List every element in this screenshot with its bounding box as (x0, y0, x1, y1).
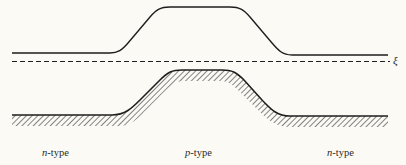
region-label-suffix: -type (47, 147, 69, 158)
region-label-suffix: -type (332, 147, 354, 158)
valence-band-hatching (0, 60, 406, 140)
band-diagram (0, 0, 406, 165)
region-label-p-center: p-type (185, 147, 212, 158)
conduction-band-curve (12, 7, 388, 55)
region-label-n-left: n-type (42, 147, 69, 158)
region-label-suffix: -type (190, 147, 212, 158)
region-label-n-right: n-type (327, 147, 354, 158)
fermi-level-symbol: ξ (393, 54, 398, 66)
